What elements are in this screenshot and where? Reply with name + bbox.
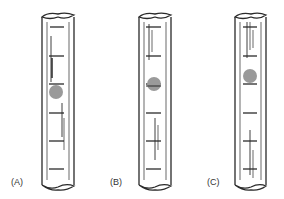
tube-b-bottom-cap [139,185,171,190]
tubes-diagram [0,0,284,199]
tube-b-sphere [147,77,161,91]
tube-a-top-cap [42,13,74,18]
panel-label-c: (C) [207,177,220,187]
panel-label-a: (A) [11,177,23,187]
figure: (A) (B) (C) [0,0,284,199]
tube-a-bottom-cap [42,185,74,190]
panel-label-b: (B) [110,177,122,187]
tube-c-bottom-cap [235,185,266,190]
tube-c [235,13,266,190]
tube-c-top-cap [235,13,266,18]
tube-b-top-cap [139,13,171,18]
tube-a-sphere [49,85,63,99]
tube-b [139,13,171,190]
tube-c-sphere [243,69,257,83]
tube-a [42,13,74,190]
